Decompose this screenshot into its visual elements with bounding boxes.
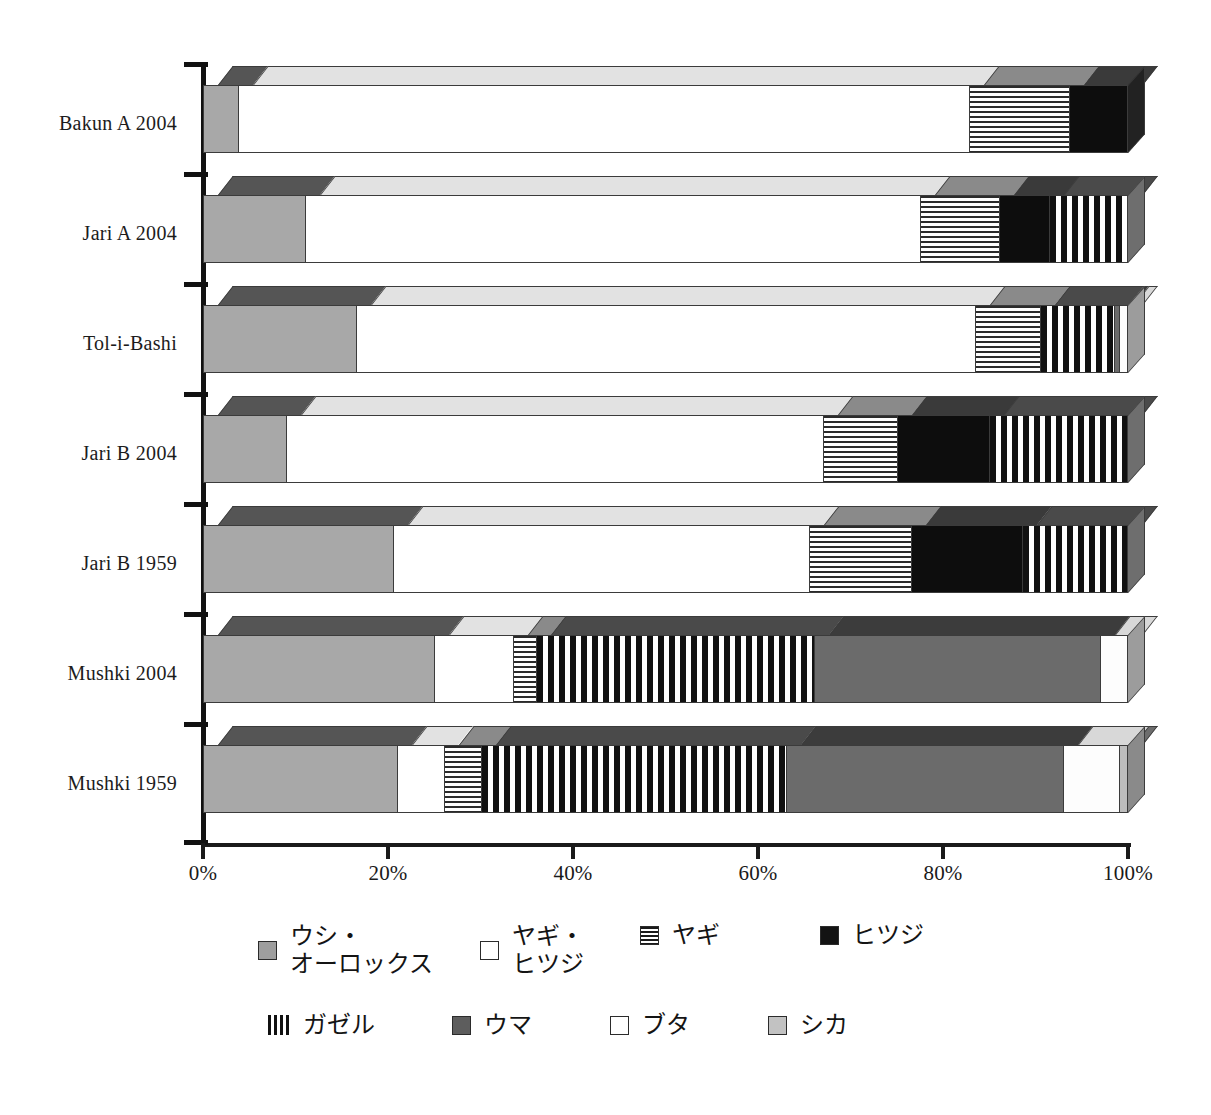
bar-segment-sheepgoat[interactable]: [305, 195, 920, 263]
bar-segment-top-sheepgoat: [253, 66, 999, 85]
x-tick-label: 100%: [1103, 861, 1153, 886]
bar-segment-horse[interactable]: [786, 745, 1064, 813]
bar-segment-top-sheep: [926, 506, 1052, 525]
bar-segment-gazelle[interactable]: [481, 745, 786, 813]
bar-segment-top-cattle: [218, 506, 422, 525]
bar-segment-top-cattle: [218, 726, 427, 745]
legend-item-deer[interactable]: シカ: [768, 1013, 848, 1037]
x-tick-label: 60%: [738, 861, 777, 886]
x-tick-label: 40%: [553, 861, 592, 886]
bar-segment-gazelle[interactable]: [1022, 525, 1128, 593]
bar-segment-horse[interactable]: [814, 635, 1101, 703]
x-tick: [941, 843, 945, 859]
bar-segment-sheep[interactable]: [897, 415, 990, 483]
legend-swatch-horse-icon: [452, 1016, 471, 1035]
x-axis-line: [203, 843, 1131, 847]
legend-swatch-pig-icon: [610, 1016, 629, 1035]
bar-segment-gazelle[interactable]: [536, 635, 814, 703]
bar-segment-top-horse: [829, 616, 1131, 635]
bar-segment-top-sheepgoat: [371, 286, 1006, 305]
bar-segment-goat[interactable]: [809, 525, 911, 593]
bar-segment-gazelle[interactable]: [1040, 305, 1114, 373]
bar-segment-top-sheep: [912, 396, 1019, 415]
y-tick: [184, 62, 208, 67]
bar-segment-sheepgoat[interactable]: [238, 85, 969, 153]
bar-segment-sheepgoat[interactable]: [434, 635, 513, 703]
bar-segment-sheep[interactable]: [911, 525, 1022, 593]
legend-swatch-hstripe-icon: [640, 926, 659, 945]
legend-swatch-deer-icon: [768, 1016, 787, 1035]
category-label: Jari B 2004: [81, 442, 177, 465]
bar-segment-cattle[interactable]: [203, 635, 434, 703]
legend-item-gray[interactable]: ウシ・ オーロックス: [258, 923, 433, 979]
bar-segment-sheepgoat[interactable]: [356, 305, 976, 373]
bar-segment-pig[interactable]: [1119, 305, 1128, 373]
bar-segment-sheep[interactable]: [999, 195, 1050, 263]
category-label: Bakun A 2004: [59, 112, 177, 135]
x-tick: [386, 843, 390, 859]
plot-area: 0%20%40%60%80%100% Bakun A 2004Jari A 20…: [0, 0, 1211, 900]
bar-segment-top-horse: [801, 726, 1093, 745]
bar-segment-top-sheepgoat: [301, 396, 852, 415]
y-tick: [184, 612, 208, 617]
legend-label: ウシ・ オーロックス: [290, 923, 433, 979]
legend-swatch-white-icon: [480, 941, 499, 960]
x-tick-label: 80%: [923, 861, 962, 886]
legend-label: ガゼル: [303, 1013, 375, 1037]
bar-segment-deer[interactable]: [1119, 745, 1128, 813]
bar-segment-top-goat: [984, 66, 1099, 85]
bar-segment-top-cattle: [218, 176, 335, 195]
bar-segment-gazelle[interactable]: [989, 415, 1128, 483]
bar-segment-goat[interactable]: [823, 415, 897, 483]
bar-segment-top-sheepgoat: [320, 176, 950, 195]
stacked-bar-chart: 0%20%40%60%80%100% Bakun A 2004Jari A 20…: [0, 0, 1211, 1115]
bar-segment-top-cattle: [218, 396, 316, 415]
bar-segment-top-gazelle: [551, 616, 843, 635]
x-tick: [1126, 843, 1130, 859]
bar-segment-goat[interactable]: [975, 305, 1040, 373]
legend-label: ウマ: [484, 1013, 532, 1037]
legend-label: ヒツジ: [852, 923, 924, 947]
x-tick: [756, 843, 760, 859]
legend-label: ヤギ: [672, 923, 720, 947]
bar-segment-sheepgoat[interactable]: [393, 525, 809, 593]
bar-segment-cattle[interactable]: [203, 525, 393, 593]
bar-segment-goat[interactable]: [444, 745, 481, 813]
legend-item-black[interactable]: ヒツジ: [820, 923, 924, 947]
bar-segment-gazelle[interactable]: [1049, 195, 1128, 263]
category-label: Mushki 1959: [68, 772, 177, 795]
x-tick: [201, 843, 205, 859]
category-label: Jari B 1959: [81, 552, 177, 575]
bar-segment-goat[interactable]: [920, 195, 999, 263]
bar-segment-cattle[interactable]: [203, 195, 305, 263]
legend-swatch-black-icon: [820, 926, 839, 945]
bar-segment-sheepgoat[interactable]: [397, 745, 443, 813]
bar-segment-cattle[interactable]: [203, 745, 397, 813]
bar-segment-cattle[interactable]: [203, 85, 238, 153]
bar-segment-sheep[interactable]: [1069, 85, 1128, 153]
category-label: Mushki 2004: [68, 662, 177, 685]
legend-item-vstripe[interactable]: ガゼル: [268, 1013, 375, 1037]
legend-label: ヤギ・ ヒツジ: [512, 923, 584, 979]
x-tick-label: 20%: [368, 861, 407, 886]
legend-label: シカ: [800, 1013, 848, 1037]
bar-segment-cattle[interactable]: [203, 305, 356, 373]
bar-segment-top-sheep: [1084, 66, 1158, 85]
bar-segment-cattle[interactable]: [203, 415, 286, 483]
y-tick: [184, 722, 208, 727]
legend-item-horse[interactable]: ウマ: [452, 1013, 532, 1037]
bar-segment-goat[interactable]: [513, 635, 536, 703]
y-tick: [184, 172, 208, 177]
legend-item-hstripe[interactable]: ヤギ: [640, 923, 720, 947]
legend-item-white[interactable]: ヤギ・ ヒツジ: [480, 923, 584, 979]
bar-segment-pig[interactable]: [1063, 745, 1119, 813]
bar-segment-sheepgoat[interactable]: [286, 415, 823, 483]
bar-segment-pig[interactable]: [1100, 635, 1128, 703]
category-label: Tol-i-Bashi: [83, 332, 177, 355]
legend-item-pig[interactable]: ブタ: [610, 1013, 690, 1037]
bar-segment-goat[interactable]: [969, 85, 1069, 153]
x-tick: [571, 843, 575, 859]
legend-swatch-gray-icon: [258, 941, 277, 960]
y-tick: [184, 502, 208, 507]
legend-swatch-vstripe-icon: [268, 1015, 290, 1035]
